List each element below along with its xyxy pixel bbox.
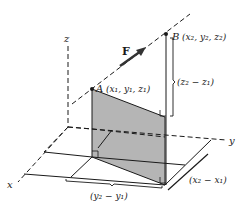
point-a-label: A <box>95 83 103 94</box>
dx-label: (x₂ − x₁) <box>189 175 227 185</box>
point-b <box>164 32 168 36</box>
proj-line <box>68 127 92 129</box>
dy-label: (y₂ − y₁) <box>90 191 128 201</box>
floor-line-1 <box>44 152 92 157</box>
shaded-plane <box>92 89 165 185</box>
x-axis-label: x <box>7 179 13 190</box>
z-axis-label: z <box>63 33 70 44</box>
dz-label: (z₂ − z₁) <box>177 77 214 87</box>
point-a-coords: (x₁, y₁, z₁) <box>106 84 151 94</box>
point-b-label: B <box>171 31 179 42</box>
point-a <box>90 87 94 91</box>
floor-line-3 <box>71 157 92 177</box>
dz-bracket <box>170 38 175 116</box>
proj-line-3 <box>44 127 68 152</box>
point-b-coords: (x₂, y₂, z₂) <box>182 32 227 42</box>
vector-label: F <box>122 45 130 58</box>
vector-diagram: z y x F A (x₁, y₁, z₁) B (x₂, y₂, z₂) (z… <box>0 0 240 208</box>
y-axis-label: y <box>228 135 235 146</box>
